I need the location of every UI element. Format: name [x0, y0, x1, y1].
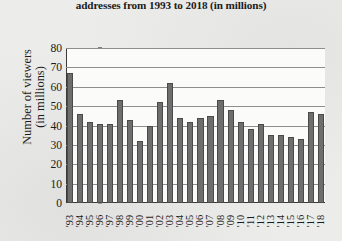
bar: [318, 114, 324, 203]
bar: [87, 122, 93, 203]
bar: [147, 126, 153, 204]
bar: [127, 120, 133, 203]
y-axis-tick-labels: 80706050403020100: [36, 48, 62, 203]
y-tick-label: 80: [36, 43, 62, 54]
bar: [258, 124, 264, 203]
bar: [248, 129, 254, 203]
x-tick: '08: [217, 205, 223, 239]
y-tick-label: 20: [36, 159, 62, 170]
x-tick: '12: [258, 205, 264, 239]
x-tick: '09: [228, 205, 234, 239]
x-tick: '93: [67, 205, 73, 239]
x-tick-label: '18: [316, 215, 326, 227]
bar: [308, 112, 314, 203]
x-tick: '01: [147, 205, 153, 239]
x-tick: '17: [308, 205, 314, 239]
x-tick: '04: [177, 205, 183, 239]
x-tick: '03: [167, 205, 173, 239]
chart-page: addresses from 1993 to 2018 (in millions…: [0, 0, 342, 241]
y-tick-label: 50: [36, 101, 62, 112]
x-tick: '13: [268, 205, 274, 239]
x-tick: '16: [298, 205, 304, 239]
bar: [217, 100, 223, 203]
bar: [187, 122, 193, 203]
x-tick: '18: [318, 205, 324, 239]
x-tick: '99: [127, 205, 133, 239]
bar: [77, 114, 83, 203]
y-tick-label: 60: [36, 81, 62, 92]
bar: [268, 135, 274, 203]
x-tick: '97: [107, 205, 113, 239]
x-tick: '00: [137, 205, 143, 239]
x-tick: '07: [207, 205, 213, 239]
x-tick-label: '07: [205, 215, 215, 227]
bar: [67, 73, 73, 203]
x-tick: '10: [238, 205, 244, 239]
x-axis-tick-labels: '93'94'95'96'97'98'99'00'01'02'03'04'05'…: [66, 205, 325, 239]
bar: [137, 141, 143, 203]
y-tick-label: 30: [36, 139, 62, 150]
x-tick: '06: [197, 205, 203, 239]
y-tick-label: 40: [36, 120, 62, 131]
bar: [117, 100, 123, 203]
chart-title: addresses from 1993 to 2018 (in millions…: [0, 0, 342, 11]
bar: [228, 110, 234, 203]
bar: [177, 118, 183, 203]
bar-series: [66, 48, 325, 203]
bar: [107, 124, 113, 203]
x-tick: '05: [187, 205, 193, 239]
plot-area: [66, 48, 325, 203]
y-tick-label: 70: [36, 62, 62, 73]
x-tick: '14: [278, 205, 284, 239]
x-tick: '94: [77, 205, 83, 239]
y-axis-title-line1: Number of viewers: [20, 49, 34, 145]
bar: [167, 83, 173, 203]
bar: [278, 135, 284, 203]
x-tick: '02: [157, 205, 163, 239]
bar: [97, 124, 103, 203]
x-tick: '96: [97, 205, 103, 239]
bar: [238, 122, 244, 203]
bar: [288, 137, 294, 203]
bar: [298, 139, 304, 203]
x-tick: '11: [248, 205, 254, 239]
x-tick: '95: [87, 205, 93, 239]
y-tick-label: 10: [36, 178, 62, 189]
bar: [207, 116, 213, 203]
bar: [157, 102, 163, 203]
x-tick: '98: [117, 205, 123, 239]
y-tick-label: 0: [36, 198, 62, 209]
x-tick: '15: [288, 205, 294, 239]
bar: [197, 118, 203, 203]
